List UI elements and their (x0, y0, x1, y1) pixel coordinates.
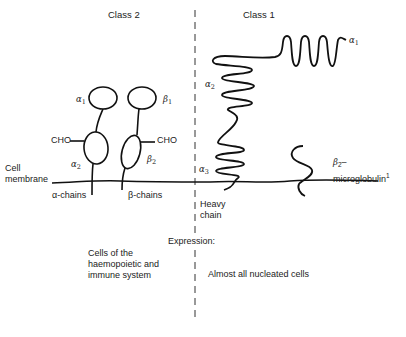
class1-alpha2-label: α2 (205, 79, 215, 93)
class2-expression-text: Cells of the haemopoietic and immune sys… (88, 248, 159, 281)
alpha-chains-label: α-chains (52, 190, 86, 201)
cell-membrane-label: Cellmembrane (5, 163, 48, 185)
class1-expression-text: Almost all nucleated cells (208, 269, 309, 280)
beta2-microglobulin-chain (292, 146, 312, 196)
class1-title: Class 1 (243, 9, 275, 20)
expression-heading: Expression: (166, 236, 217, 247)
class1-heavy-chain (213, 36, 346, 190)
class2-title: Class 2 (108, 9, 140, 20)
class1-alpha1-label: α1 (349, 35, 359, 49)
class2-beta-chain (118, 87, 156, 190)
class2-cho-right-label: CHO (157, 135, 177, 146)
beta-chains-label: β-chains (128, 190, 162, 201)
beta2-microglobulin-label: β2– microglobulin1 (333, 157, 390, 185)
class2-beta1-label: β1 (163, 94, 172, 108)
class1-alpha3-label: α3 (199, 164, 209, 178)
class2-alpha2-label: α2 (71, 159, 81, 173)
class2-cho-left-label: CHO (51, 135, 71, 146)
heavy-chain-label: Heavychain (200, 199, 226, 221)
cell-membrane-line (52, 180, 378, 183)
class2-beta2-label: β2 (147, 154, 156, 168)
class2-alpha1-label: α1 (76, 94, 86, 108)
